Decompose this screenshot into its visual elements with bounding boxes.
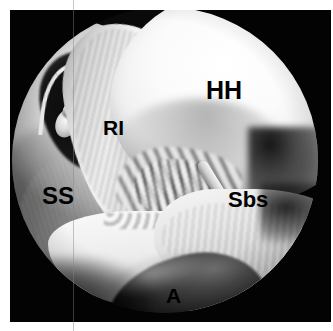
label-rotator-interval: RI — [103, 117, 124, 138]
subscapularis-edge-shadow — [260, 183, 318, 243]
arthroscopy-figure: HH RI SS Sbs A — [0, 0, 333, 331]
label-humeral-head: HH — [206, 78, 242, 103]
endoscope-frame — [10, 10, 331, 322]
circular-field-of-view — [12, 10, 318, 313]
label-axillary-pouch: A — [166, 285, 181, 306]
label-supraspinatus: SS — [42, 184, 74, 208]
label-subscapularis: Sbs — [228, 189, 268, 211]
lower-left-shadow — [12, 257, 152, 313]
